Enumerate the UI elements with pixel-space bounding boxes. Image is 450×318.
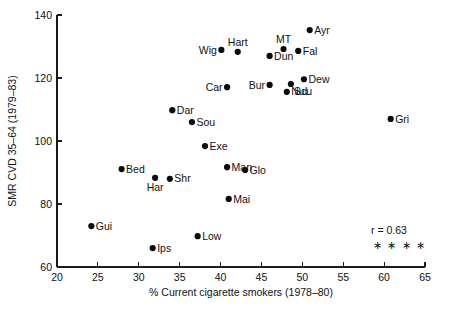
y-tick-label: 80: [40, 198, 52, 210]
point-label: MT: [276, 33, 292, 45]
data-point: Hart: [228, 36, 248, 55]
x-axis-title: % Current cigarette smokers (1978–80): [149, 286, 333, 298]
point-label: Mai: [233, 193, 250, 205]
point-label: Dar: [177, 104, 194, 116]
data-points-group: AyrWigHartMTFalDunDewScuBurCarNuLGriDarS…: [88, 24, 409, 254]
point-label: Dun: [274, 50, 293, 62]
data-point: Fal: [295, 45, 317, 57]
point-marker: [307, 27, 313, 33]
point-marker: [235, 49, 241, 55]
point-marker: [301, 76, 307, 82]
point-marker: [169, 107, 175, 113]
data-point: Ips: [150, 242, 172, 254]
data-point: Car: [206, 81, 231, 93]
point-marker: [267, 82, 273, 88]
point-marker: [119, 166, 125, 172]
x-tick-label: 25: [92, 271, 104, 283]
y-axis-ticks: 6080100120140: [34, 9, 62, 273]
point-label: Fal: [303, 45, 318, 57]
x-tick-label: 65: [419, 271, 431, 283]
x-tick-label: 55: [337, 271, 349, 283]
scatter-plot-figure: 6080100120140 20253035404550556065 AyrWi…: [0, 0, 450, 318]
significance-annotation: ∗ ∗ ∗ ∗: [373, 239, 427, 251]
x-tick-label: 20: [51, 271, 63, 283]
data-point: Low: [195, 230, 222, 242]
data-point: Dar: [169, 104, 194, 116]
point-label: Gui: [96, 220, 112, 232]
point-label: Wig: [199, 44, 217, 56]
data-point: Ayr: [307, 24, 331, 36]
point-marker: [224, 84, 230, 90]
point-label: Shr: [174, 172, 191, 184]
point-marker: [295, 48, 301, 54]
point-label: Exe: [210, 140, 228, 152]
x-tick-label: 40: [215, 271, 227, 283]
data-point: Dun: [267, 50, 294, 62]
point-label: Car: [206, 81, 223, 93]
data-point: Bed: [119, 163, 145, 175]
point-label: Sou: [196, 116, 215, 128]
x-tick-label: 35: [174, 271, 186, 283]
point-marker: [218, 47, 224, 53]
point-label: Hart: [228, 36, 248, 48]
point-marker: [167, 176, 173, 182]
point-label: Har: [147, 181, 164, 193]
data-point: Bur: [249, 79, 273, 91]
point-marker: [284, 89, 290, 95]
data-point: Shr: [167, 172, 191, 184]
data-point: Wig: [199, 44, 225, 56]
point-marker: [150, 245, 156, 251]
point-label: Low: [202, 230, 222, 242]
point-marker: [226, 196, 232, 202]
point-marker: [267, 53, 273, 59]
x-axis-ticks: 20253035404550556065: [51, 262, 431, 283]
y-tick-label: 120: [34, 72, 52, 84]
point-marker: [195, 233, 201, 239]
correlation-annotation: r = 0.63: [371, 224, 407, 236]
y-tick-label: 100: [34, 135, 52, 147]
point-label: Gri: [395, 113, 409, 125]
point-label: Ayr: [314, 24, 330, 36]
point-marker: [224, 164, 230, 170]
data-point: Sou: [189, 116, 215, 128]
x-tick-label: 45: [256, 271, 268, 283]
y-tick-label: 140: [34, 9, 52, 21]
point-marker: [189, 119, 195, 125]
x-tick-label: 30: [133, 271, 145, 283]
data-point: Mai: [226, 193, 251, 205]
x-tick-label: 60: [378, 271, 390, 283]
point-label: Ips: [157, 242, 171, 254]
point-label: Bur: [249, 79, 266, 91]
data-point: Gui: [88, 220, 112, 232]
point-marker: [388, 116, 394, 122]
point-label: Glo: [250, 164, 266, 176]
y-axis-title: SMR CVD 35–64 (1979–83): [6, 75, 18, 206]
chart-canvas: 6080100120140 20253035404550556065 AyrWi…: [0, 0, 450, 318]
point-label: NuL: [291, 85, 310, 97]
x-tick-label: 50: [296, 271, 308, 283]
data-point: Gri: [388, 113, 410, 125]
point-marker: [242, 167, 248, 173]
point-marker: [88, 223, 94, 229]
data-point: Dew: [301, 73, 330, 85]
point-marker: [202, 143, 208, 149]
data-point: Exe: [202, 140, 228, 152]
data-point: NuL: [284, 85, 311, 97]
point-label: Bed: [126, 163, 145, 175]
point-label: Dew: [308, 73, 329, 85]
data-point: Har: [147, 175, 164, 193]
